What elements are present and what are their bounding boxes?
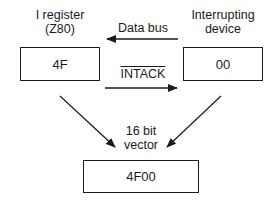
i-register-subtitle: (Z80) <box>20 22 100 36</box>
vector-value: 4F00 <box>126 169 156 184</box>
interrupting-device-box: 00 <box>183 47 263 81</box>
intack-label: INTACK <box>110 67 176 81</box>
vector-label: 16 bit vector <box>103 124 179 152</box>
i-register-box: 4F <box>20 47 100 81</box>
vector-subtitle: vector <box>103 138 179 152</box>
interrupting-device-label: Interrupting device <box>183 8 263 36</box>
interrupting-device-value: 00 <box>216 57 230 72</box>
vector-box: 4F00 <box>83 160 199 193</box>
vector-title: 16 bit <box>103 124 179 138</box>
interrupting-device-subtitle: device <box>183 22 263 36</box>
data-bus-label: Data bus <box>110 21 176 35</box>
i-register-title: I register <box>20 8 100 22</box>
i-register-value: 4F <box>52 57 67 72</box>
interrupting-device-title: Interrupting <box>183 8 263 22</box>
i-register-label: I register (Z80) <box>20 8 100 36</box>
